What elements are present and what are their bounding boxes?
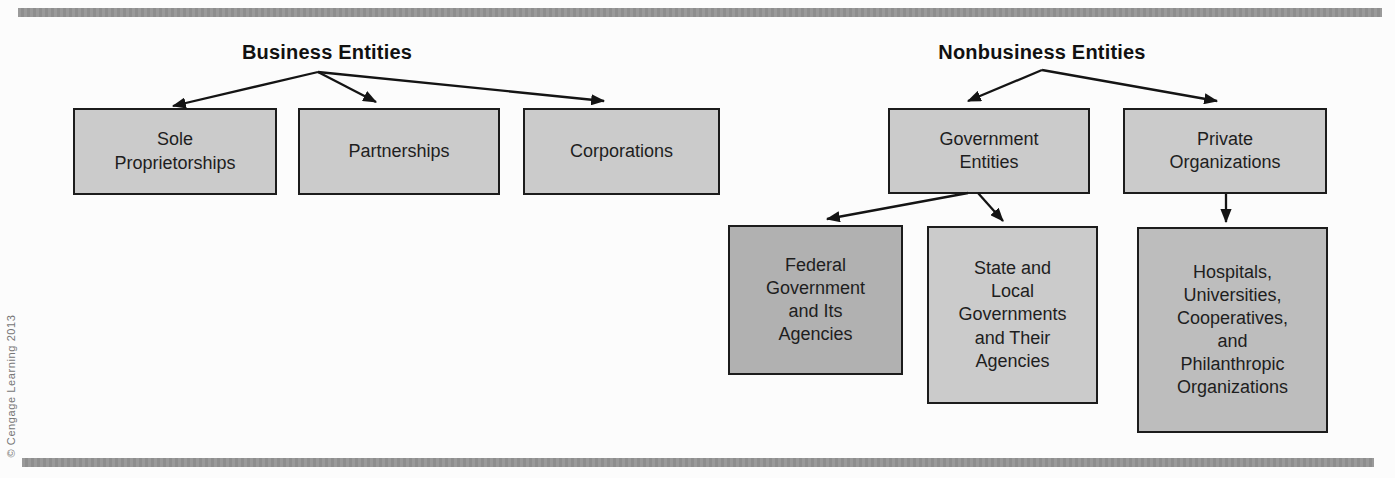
bottom-rule-bar — [22, 458, 1374, 467]
arrow-government-to-federal — [827, 193, 968, 219]
box-hospitals-universities: Hospitals, Universities, Cooperatives, a… — [1137, 227, 1328, 433]
arrow-nonbusiness-to-private — [1042, 70, 1217, 101]
arrow-government-to-state — [978, 193, 1003, 221]
box-partnerships: Partnerships — [298, 108, 500, 195]
box-state-local-governments: State and Local Governments and Their Ag… — [927, 226, 1098, 404]
credit-vertical-text: © Cengage Learning 2013 — [5, 314, 17, 457]
box-corporations: Corporations — [523, 108, 720, 195]
heading-business-entities: Business Entities — [242, 41, 412, 64]
arrow-business-to-corporations — [318, 72, 604, 101]
box-private-organizations: Private Organizations — [1123, 108, 1327, 194]
figure-canvas: Business Entities Nonbusiness Entities S… — [0, 0, 1395, 478]
arrow-nonbusiness-to-government — [968, 70, 1042, 101]
top-rule-bar — [18, 8, 1382, 17]
arrow-business-to-partnerships — [318, 72, 376, 102]
box-federal-government: Federal Government and Its Agencies — [728, 225, 903, 375]
box-sole-proprietorships: Sole Proprietorships — [73, 108, 277, 195]
heading-nonbusiness-entities: Nonbusiness Entities — [938, 41, 1145, 64]
arrow-business-to-sole — [173, 72, 318, 106]
box-government-entities: Government Entities — [888, 108, 1090, 194]
